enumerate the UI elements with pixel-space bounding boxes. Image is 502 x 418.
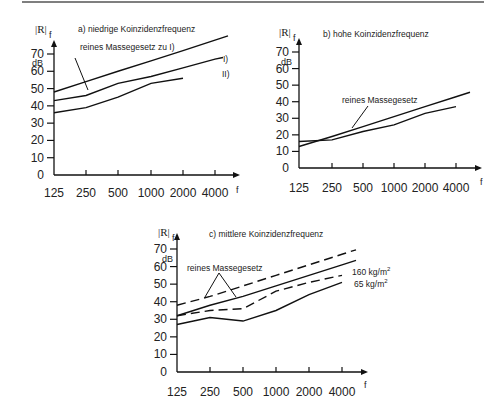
chart-a-series-label-2: II): [222, 69, 230, 79]
chart-c-series-label-1-sup: 2: [387, 266, 391, 272]
chart-c-series-label-2-text: 65 kg/m: [354, 279, 384, 289]
x-axis-arrow-icon: [475, 165, 482, 171]
y-axis-arrow-icon: [51, 40, 57, 47]
chart-a-title: a) niedrige Koinzidenzfrequenz: [78, 24, 195, 34]
x-axis-arrow-icon: [361, 369, 368, 375]
y-tick-label: 20: [154, 330, 168, 344]
chart-b-xlabel: f: [480, 177, 483, 187]
chart-b: 010203040506070125250500100020004000: [276, 38, 482, 195]
chart-c: 010203040506070125250500100020004000: [154, 233, 368, 399]
x-tick-label: 2000: [412, 181, 439, 195]
x-tick-label: 1000: [138, 186, 165, 200]
y-tick-label: 50: [154, 277, 168, 291]
chart-a-ylabel-sub: f: [49, 30, 52, 40]
chart-c-ylabel-sub: f: [172, 233, 175, 243]
chart-c-series-label-2-sup: 2: [384, 278, 388, 284]
series-line: [299, 107, 456, 142]
y-tick-label: 0: [37, 168, 44, 182]
chart-b-ylabel: |R|: [279, 26, 291, 38]
y-tick-label: 10: [154, 347, 168, 361]
x-tick-label: 1000: [263, 385, 290, 399]
y-tick-label: 20: [276, 128, 290, 142]
y-tick-label: 10: [276, 144, 290, 158]
x-tick-label: 4000: [443, 181, 470, 195]
x-tick-label: 4000: [329, 385, 356, 399]
x-tick-label: 2000: [296, 385, 323, 399]
x-tick-label: 125: [44, 186, 64, 200]
chart-a-ylabel: |R|: [35, 23, 47, 35]
y-tick-label: 10: [31, 151, 45, 165]
x-tick-label: 250: [322, 181, 342, 195]
chart-c-series-label-1-text: 160 kg/m: [352, 267, 387, 277]
x-tick-label: 1000: [381, 181, 408, 195]
chart-a-xlabel: f: [236, 185, 239, 195]
chart-a-annotation: reines Massegesetz zu I): [80, 42, 175, 52]
y-axis-arrow-icon: [296, 38, 302, 45]
x-tick-label: 250: [76, 186, 96, 200]
chart-b-ylabel-sub: f: [293, 33, 296, 43]
series-line: [54, 57, 223, 100]
series-line: [177, 275, 342, 315]
chart-a-series-label-1: I): [223, 54, 228, 64]
x-tick-label: 500: [353, 181, 373, 195]
chart-c-series-label-1: 160 kg/m2: [352, 266, 391, 277]
x-axis-arrow-icon: [233, 172, 240, 178]
chart-c-annotation: reines Massegesetz: [187, 263, 263, 273]
x-tick-label: 500: [233, 385, 253, 399]
x-tick-label: 2000: [170, 186, 197, 200]
series-line: [177, 282, 342, 324]
x-tick-label: 125: [289, 181, 309, 195]
y-axis-arrow-icon: [174, 233, 180, 240]
x-tick-label: 125: [167, 385, 187, 399]
x-tick-label: 250: [200, 385, 220, 399]
chart-b-annotation: reines Massegesetz: [342, 95, 418, 105]
chart-b-unit: dB: [281, 57, 292, 67]
y-tick-label: 40: [276, 95, 290, 109]
y-tick-label: 30: [276, 111, 290, 125]
chart-c-title: c) mittlere Koinzidenzfrequenz: [209, 229, 323, 239]
y-tick-label: 40: [31, 99, 45, 113]
chart-c-unit: dB: [162, 254, 173, 264]
chart-a: 010203040506070125250500100020004000: [31, 36, 240, 200]
y-tick-label: 20: [31, 133, 45, 147]
chart-c-series-label-2: 65 kg/m2: [354, 278, 388, 289]
chart-a-unit: dB: [32, 58, 43, 68]
y-tick-label: 0: [160, 365, 167, 379]
y-tick-label: 50: [276, 78, 290, 92]
y-tick-label: 0: [282, 161, 289, 175]
annotation-leader: [352, 106, 368, 128]
y-tick-label: 40: [154, 295, 168, 309]
chart-c-xlabel: f: [364, 380, 367, 390]
y-tick-label: 30: [31, 116, 45, 130]
y-tick-label: 30: [154, 312, 168, 326]
figure-canvas: 010203040506070125250500100020004000 a) …: [0, 0, 502, 418]
x-tick-label: 4000: [202, 186, 229, 200]
chart-c-ylabel: |R|: [158, 226, 170, 238]
x-tick-label: 500: [108, 186, 128, 200]
y-tick-label: 50: [31, 82, 45, 96]
chart-b-title: b) hohe Koinzidenzfrequenz: [323, 29, 429, 39]
